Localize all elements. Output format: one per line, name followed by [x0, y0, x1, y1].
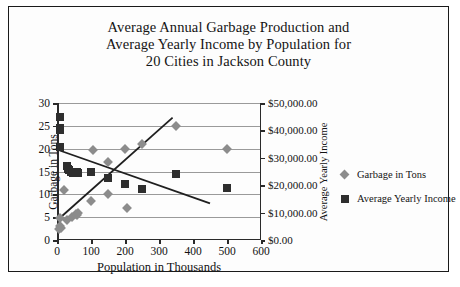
chart-title-line-1: Average Annual Garbage Production and [9, 19, 448, 36]
y-axis-left-tick-label: 25 [39, 120, 51, 132]
y-axis-right-tick-label: $20,000.00 [268, 179, 318, 191]
x-axis-tick-label: 200 [116, 245, 133, 257]
data-point-income [74, 169, 82, 177]
y-axis-left-tick-label: 0 [44, 234, 50, 246]
y-axis-right-tick-label: $50,000.00 [268, 97, 318, 109]
x-axis-tick-label: 300 [150, 245, 167, 257]
data-point-income [56, 124, 64, 132]
x-axis-title: Population in Thousands [97, 260, 221, 275]
y-axis-right-title: Average Yearly Income [318, 122, 329, 221]
x-axis-tick-label: 500 [218, 245, 235, 257]
y-axis-right-tick-label: $40,000.00 [268, 124, 318, 136]
chart-legend: Garbage in Tons Average Yearly Income [341, 169, 456, 217]
legend-label-income: Average Yearly Income [357, 193, 456, 204]
x-axis-tick-label: 0 [54, 245, 60, 257]
data-point-income [172, 170, 180, 178]
x-axis-tick [57, 240, 59, 244]
legend-label-garbage: Garbage in Tons [357, 169, 426, 180]
plot-area: 051015202530 $0.00$10,000.00$20,000.00$3… [57, 103, 261, 240]
y-axis-left-title: Garbage in Tons [47, 134, 59, 210]
y-axis-left-tick-label: 30 [39, 97, 51, 109]
square-marker-icon [341, 195, 349, 203]
y-axis-right-tick [261, 158, 265, 160]
chart-figure: Average Annual Garbage Production and Av… [8, 6, 449, 272]
legend-item-garbage: Garbage in Tons [341, 169, 456, 180]
data-point-income [121, 180, 129, 188]
data-point-income [87, 168, 95, 176]
data-point-income [223, 184, 231, 192]
chart-title: Average Annual Garbage Production and Av… [9, 19, 448, 70]
x-axis-tick-label: 600 [252, 245, 269, 257]
y-axis-left-tick-label: 5 [44, 211, 50, 223]
diamond-marker-icon [340, 170, 350, 180]
legend-item-income: Average Yearly Income [341, 193, 456, 204]
data-point-income [56, 113, 64, 121]
y-axis-right-tick [261, 130, 265, 132]
y-axis-right-tick-label: $10,000.00 [268, 207, 318, 219]
y-axis-right-tick-label: $0.00 [268, 234, 293, 246]
chart-title-line-2: Average Yearly Income by Population for [9, 36, 448, 53]
x-axis-tick [261, 240, 263, 244]
x-axis-tick [91, 240, 93, 244]
data-point-income [104, 174, 112, 182]
y-axis-right-tick-label: $30,000.00 [268, 152, 318, 164]
y-axis-right-tick [261, 185, 265, 187]
income-trendline [60, 150, 210, 203]
y-axis-right-tick [261, 103, 265, 105]
y-axis-right-tick [261, 213, 265, 215]
x-axis-tick-label: 400 [184, 245, 201, 257]
data-point-income [138, 185, 146, 193]
x-axis-tick [125, 240, 127, 244]
x-axis-tick [227, 240, 229, 244]
x-axis-tick [159, 240, 161, 244]
x-axis-tick-label: 100 [82, 245, 99, 257]
x-axis-tick [193, 240, 195, 244]
chart-title-line-3: 20 Cities in Jackson County [9, 53, 448, 70]
